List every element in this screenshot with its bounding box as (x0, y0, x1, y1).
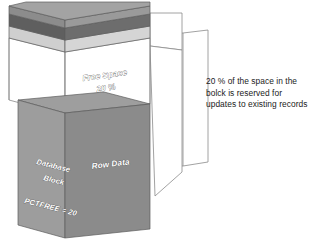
row-data-front-face (65, 104, 150, 238)
block-diagram-canvas: Free Space 20 % Database Block PCTFREE =… (0, 0, 326, 248)
callout-line-3: updates to existing records (206, 99, 322, 111)
callout-line-1: 20 % of the space in the (206, 76, 322, 88)
callout-line-2: bolck is reserved for (206, 88, 322, 100)
callout-leader-wireframe (150, 13, 208, 196)
leader-quad-main (150, 46, 182, 196)
leader-quad-top (150, 13, 182, 50)
free-space-callout-text: 20 % of the space in the bolck is reserv… (206, 76, 322, 111)
diagram-root: Free Space 20 % Database Block PCTFREE =… (0, 0, 326, 248)
leader-quad-right (183, 30, 208, 166)
